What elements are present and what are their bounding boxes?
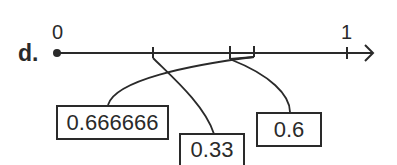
answer-box-0-33: 0.33 (179, 133, 245, 165)
part-label: d. (18, 40, 38, 67)
answer-box-0-666666: 0.666666 (56, 105, 169, 140)
start-label: 0 (52, 22, 63, 42)
connector-0-666666 (108, 57, 254, 105)
end-label: 1 (341, 22, 352, 42)
number-line-diagram: d. 0 1 0.666666 0.33 0.6 (0, 0, 397, 165)
connector-0-6 (232, 60, 290, 112)
origin-dot-icon (53, 49, 61, 57)
answer-box-0-6: 0.6 (256, 112, 322, 147)
